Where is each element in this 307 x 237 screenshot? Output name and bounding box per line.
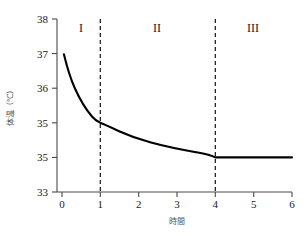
x-axis-title: 時間	[169, 217, 185, 226]
x-tick-label: 3	[174, 198, 180, 210]
x-tick-label: 6	[289, 198, 295, 210]
y-tick-label: 35	[37, 117, 49, 129]
region-label-iii: III	[247, 21, 259, 35]
region-label-i: I	[79, 21, 83, 35]
x-tick-label: 0	[59, 198, 65, 210]
x-tick-label: 4	[213, 198, 219, 210]
x-tick-label: 2	[136, 198, 142, 210]
y-axis-title: 体温（℃）	[5, 86, 15, 127]
temperature-time-chart: 38 37 36 35 35 33 0 1 2 3 4 5 6 I II III…	[0, 0, 307, 237]
x-tick-label: 1	[98, 198, 104, 210]
y-tick-label: 37	[37, 48, 49, 60]
region-label-ii: II	[153, 21, 161, 35]
y-tick-label: 38	[37, 13, 49, 25]
y-tick-label: 33	[37, 186, 49, 198]
y-tick-label: 36	[37, 82, 49, 94]
y-tick-label: 35	[37, 151, 49, 163]
x-tick-label: 5	[251, 198, 257, 210]
chart-canvas: 38 37 36 35 35 33 0 1 2 3 4 5 6 I II III…	[0, 0, 307, 237]
